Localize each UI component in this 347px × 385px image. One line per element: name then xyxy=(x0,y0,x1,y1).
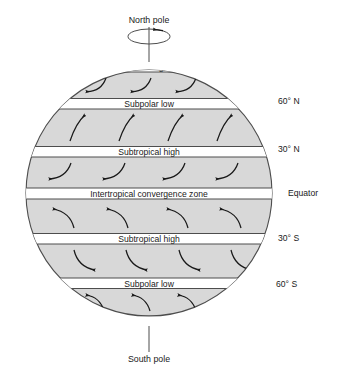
latitude-label-30-s: 30° S xyxy=(278,233,299,243)
north-pole-label: North pole xyxy=(129,15,170,25)
latitude-label-60-s: 60° S xyxy=(276,279,297,289)
north-pole-annotation: North pole xyxy=(128,15,170,62)
latitude-label-equator: Equator xyxy=(288,188,318,198)
latitude-label-60-n: 60° N xyxy=(278,96,300,106)
latitude-label-30-n: 30° N xyxy=(278,144,300,154)
band-label-polar-high-north: Polar high xyxy=(130,62,169,72)
band-label-subpolar-low-south: Subpolar low xyxy=(124,279,174,289)
latitude-labels: 60° N 30° N Equator 30° S 60° S xyxy=(276,96,318,289)
south-pole-label: South pole xyxy=(128,354,170,364)
band-label-subtropical-high-south: Subtropical high xyxy=(118,234,180,244)
band-label-subpolar-low-north: Subpolar low xyxy=(124,99,174,109)
rotation-arrow-icon xyxy=(154,29,164,30)
figure-global-circulation: North pole xyxy=(0,0,347,385)
south-pole-annotation: South pole xyxy=(128,326,170,364)
circulation-diagram-canvas: North pole xyxy=(0,0,347,385)
band-label-subtropical-high-north: Subtropical high xyxy=(118,147,180,157)
band-label-polar-high-south: Polar high xyxy=(130,316,169,326)
band-label-itcz: Intertropical convergence zone xyxy=(90,189,208,199)
band-rect-polar-high-south xyxy=(20,316,280,326)
